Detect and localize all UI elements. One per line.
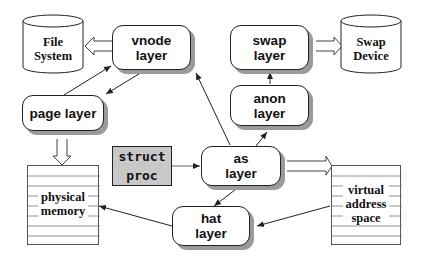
swap-device-cylinder: Swap Device — [340, 14, 402, 74]
struct-proc: struct proc — [112, 146, 172, 186]
physical-memory-label: physical memory — [38, 190, 88, 218]
edge-as-to-anon — [256, 132, 267, 146]
physical-memory: physical memory — [27, 165, 99, 245]
as-layer: as layer — [201, 146, 281, 186]
edge-page-to-physmem — [53, 139, 71, 165]
virtual-address-space: virtual address space — [331, 165, 401, 245]
file-system-label: File System — [22, 26, 84, 72]
edge-as-to-vas — [287, 156, 332, 175]
hat-layer: hat layer — [172, 206, 250, 246]
edge-vnode-to-filesystem — [85, 37, 112, 55]
virtual-address-space-label: virtual address space — [343, 183, 390, 225]
edge-as-to-hat — [214, 186, 240, 206]
edge-swap-to-swapdevice — [316, 37, 342, 55]
anon-layer: anon layer — [230, 85, 309, 126]
file-system-cylinder: File System — [22, 14, 84, 74]
vnode-layer-label: vnode layer — [132, 33, 172, 63]
as-layer-label: as layer — [225, 151, 257, 181]
vnode-layer: vnode layer — [112, 25, 191, 70]
hat-layer-label: hat layer — [195, 211, 227, 241]
anon-layer-label: anon layer — [253, 91, 285, 121]
edge-hat-to-physmem — [99, 206, 172, 226]
swap-device-label: Swap Device — [340, 26, 402, 72]
edge-vas-to-hat — [257, 206, 330, 226]
swap-layer: swap layer — [230, 25, 309, 70]
struct-proc-label: struct proc — [119, 147, 166, 185]
page-layer: page layer — [22, 95, 104, 131]
swap-layer-label: swap layer — [253, 33, 287, 63]
edge-as-to-vnode — [196, 73, 230, 145]
page-layer-label: page layer — [30, 106, 97, 121]
edge-vnode-to-page — [106, 66, 152, 94]
